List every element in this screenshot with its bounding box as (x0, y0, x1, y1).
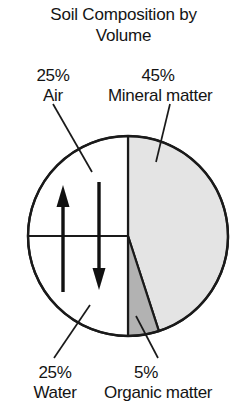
label-air-percent: 25% (22, 66, 84, 86)
figure-container: Soil Composition by Volume 25% Air (0, 0, 247, 419)
pie-chart (0, 0, 247, 419)
label-air-name: Air (22, 86, 84, 106)
label-water: 25% Water (18, 363, 92, 403)
label-organic-matter: 5% Organic matter (104, 363, 247, 403)
label-mineral-matter-name: Mineral matter (108, 86, 247, 106)
label-water-name: Water (18, 383, 92, 403)
pie-slice-water[interactable] (28, 236, 128, 336)
label-organic-matter-name: Organic matter (104, 383, 247, 403)
label-mineral-matter: 45% Mineral matter (108, 66, 247, 106)
label-mineral-matter-percent: 45% (108, 66, 208, 86)
label-air: 25% Air (22, 66, 84, 106)
label-water-percent: 25% (18, 363, 92, 383)
label-organic-matter-percent: 5% (104, 363, 188, 383)
pie-slice-air[interactable] (28, 136, 128, 236)
